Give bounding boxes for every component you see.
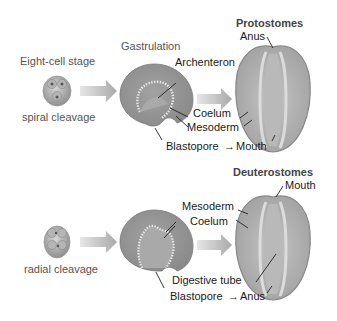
label-coelum-protostome: Coelum xyxy=(193,107,231,119)
gastrula-deuterostome xyxy=(120,210,193,271)
eight-cell-embryo-radial xyxy=(44,226,70,258)
label-eight-cell-stage: Eight-cell stage xyxy=(20,55,95,67)
label-blastopore-protostome: Blastopore xyxy=(166,140,219,152)
arrow-glyph-protostome: → xyxy=(224,140,235,152)
label-archenteron: Archenteron xyxy=(175,56,235,68)
arrow-to-deuterostome xyxy=(197,234,232,256)
label-coelum-deuterostome: Coelum xyxy=(190,215,228,227)
label-anus-protostome: Anus xyxy=(240,30,265,42)
label-mouth-deuterostome: Mouth xyxy=(285,179,316,191)
label-mesoderm-protostome: Mesoderm xyxy=(187,121,239,133)
label-blastopore-deuterostome: Blastopore xyxy=(170,290,223,302)
arrow-to-gastrulation-top xyxy=(80,80,117,102)
title-protostomes: Protostomes xyxy=(236,17,303,29)
label-mesoderm-deuterostome: Mesoderm xyxy=(182,200,234,212)
label-mouth-protostome: Mouth xyxy=(236,140,267,152)
label-anus-deuterostome: Anus xyxy=(240,290,265,302)
arrow-to-gastrulation-bottom xyxy=(80,231,117,253)
deuterostome-body xyxy=(236,196,310,300)
label-digestive-tube: Digestive tube xyxy=(172,274,242,286)
label-radial-cleavage: radial cleavage xyxy=(24,263,98,275)
gastrula-protostome xyxy=(120,64,193,126)
label-gastrulation: Gastrulation xyxy=(121,40,180,52)
arrow-glyph-deuterostome: → xyxy=(228,290,239,302)
eight-cell-embryo-spiral xyxy=(43,76,71,106)
title-deuterostomes: Deuterostomes xyxy=(233,166,313,178)
protostome-body xyxy=(236,46,310,152)
label-spiral-cleavage: spiral cleavage xyxy=(22,111,95,123)
